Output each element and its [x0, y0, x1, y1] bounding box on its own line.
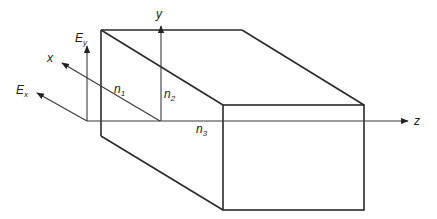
x-axis-arrow	[62, 63, 160, 121]
z-axis-label: z	[413, 114, 420, 128]
box-top-right-receding-edge	[242, 30, 364, 105]
y-axis-label: y	[155, 7, 163, 21]
waveguide-box	[101, 30, 364, 210]
box-bottom-left-receding-edge	[101, 136, 223, 210]
ex-field-arrow	[37, 93, 87, 121]
x-axis-label: x	[46, 51, 54, 65]
ex-label: Ex	[16, 83, 29, 99]
n3-label: n3	[196, 122, 208, 138]
n1-label: n1	[114, 82, 125, 98]
waveguide-diagram: y x z Ey Ex n1 n2 n3	[0, 0, 437, 219]
ey-label: Ey	[75, 31, 88, 47]
n2-label: n2	[164, 87, 176, 103]
